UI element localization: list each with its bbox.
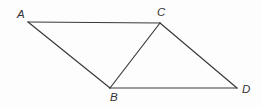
segment-ac: [28, 22, 160, 23]
figure-svg: [0, 0, 261, 107]
vertex-label-a: A: [17, 9, 25, 21]
vertex-label-c: C: [157, 7, 166, 19]
vertex-label-d: D: [242, 84, 251, 96]
segment-ab: [28, 22, 110, 88]
segment-cd: [160, 23, 237, 88]
segments-group: [28, 22, 237, 88]
segment-bc: [110, 23, 160, 88]
vertex-label-b: B: [110, 92, 118, 104]
geometry-figure: A C B D: [0, 0, 261, 107]
